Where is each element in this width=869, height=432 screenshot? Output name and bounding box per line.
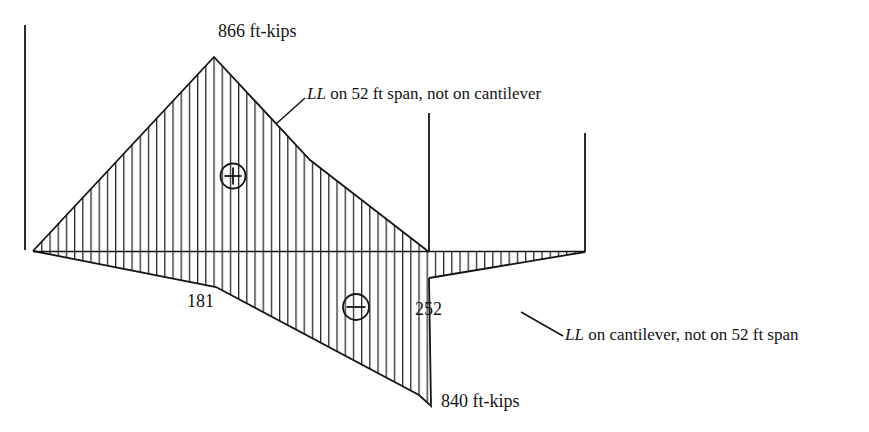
ll-on-cantilever-label-italic: LL — [565, 325, 584, 344]
ll-on-span-label: LL on 52 ft span, not on cantilever — [307, 85, 541, 104]
ll-on-span-label-italic: LL — [307, 84, 326, 103]
peak-positive-moment-label: 866 ft-kips — [218, 22, 297, 42]
positive-moment-hatch — [28, 50, 438, 260]
positive-sign-marker — [221, 164, 246, 189]
moment-diagram-figure: 866 ft-kips LL on 52 ft span, not on can… — [0, 0, 869, 432]
negative-moment-hatch — [28, 250, 438, 415]
mid-moment-value-label: 252 — [415, 300, 442, 320]
left-moment-value-label: 181 — [187, 292, 214, 312]
peak-negative-moment-label: 840 ft-kips — [441, 392, 520, 412]
leader-line-ll-cantilever — [521, 312, 563, 336]
ll-on-cantilever-label: LL on cantilever, not on 52 ft span — [565, 326, 799, 345]
negative-sign-marker — [343, 294, 369, 320]
leader-line-ll-span — [276, 98, 305, 124]
ll-on-span-label-rest: on 52 ft span, not on cantilever — [326, 84, 541, 103]
moment-diagram-canvas — [0, 0, 869, 432]
cantilever-moment-hatch — [425, 248, 590, 288]
ll-on-cantilever-label-rest: on cantilever, not on 52 ft span — [584, 325, 799, 344]
